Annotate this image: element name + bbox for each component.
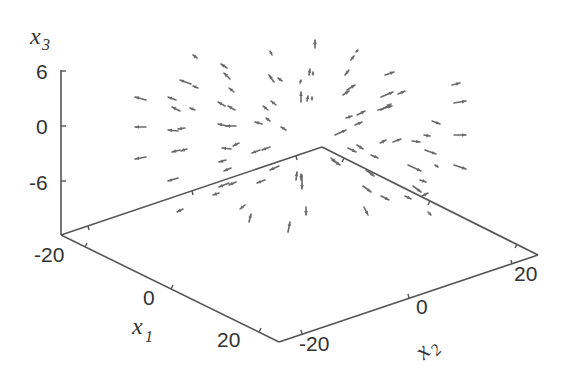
vector-arrow — [287, 222, 291, 232]
vector-arrow — [278, 78, 282, 81]
vector-arrow — [351, 56, 354, 60]
vector-arrow — [310, 97, 314, 100]
vector-arrow — [168, 178, 178, 182]
vector-field-plot: 6 0 -6 -20 0 20 -20 0 20 x 3 x 1 x 2 — [0, 0, 569, 369]
x1-back-tick-1 — [342, 158, 344, 162]
arrowhead-icon — [432, 151, 436, 154]
vector-arrow — [181, 148, 187, 151]
vector-arrow — [371, 155, 378, 158]
arrowhead-icon — [348, 115, 352, 118]
vector-arrow — [266, 118, 270, 121]
vector-arrow — [304, 207, 308, 215]
vector-arrow — [454, 165, 466, 169]
x3-tick-label-6: 6 — [36, 60, 48, 83]
vector-arrow — [226, 124, 236, 128]
arrowhead-icon — [213, 192, 217, 195]
x1-axis-line — [61, 235, 279, 342]
vector-arrow — [357, 145, 363, 149]
x1-tick-m20 — [85, 243, 87, 247]
vector-arrow — [454, 133, 466, 137]
vector-arrow — [424, 134, 430, 138]
vector-arrow — [168, 97, 176, 100]
vector-arrow — [356, 50, 359, 53]
x1-tick-label-0: 0 — [143, 286, 155, 309]
vector-arrow — [299, 80, 302, 83]
vector-arrow — [348, 148, 356, 152]
vector-arrow — [295, 172, 299, 180]
arrowhead-icon — [252, 150, 256, 153]
vector-arrow — [428, 212, 431, 215]
vector-arrow — [393, 139, 401, 142]
axes-box — [61, 70, 538, 342]
arrowhead-icon — [462, 166, 466, 169]
vector-arrow — [381, 196, 389, 200]
x3-tick-label-0: 0 — [36, 115, 48, 138]
x1-axis-title: x 1 — [131, 313, 153, 345]
x2-back-tick-1 — [88, 226, 89, 230]
arrowhead-icon — [226, 124, 230, 128]
vector-arrow — [193, 55, 197, 58]
vector-arrow — [213, 192, 219, 195]
x3-title-sub: 3 — [41, 36, 50, 53]
vector-arrow — [308, 69, 312, 75]
arrowhead-icon — [311, 72, 315, 74]
vector-arrow — [281, 127, 286, 130]
x3-tick-label-m6: -6 — [29, 171, 48, 194]
arrowhead-icon — [300, 185, 304, 189]
arrowhead-icon — [397, 139, 401, 142]
vector-arrow — [306, 96, 310, 101]
x2-tick-20 — [511, 260, 512, 264]
x1-tick-20 — [259, 328, 261, 332]
x2-tick-0 — [408, 294, 409, 298]
arrowhead-icon — [135, 125, 139, 129]
vector-arrow — [270, 166, 279, 170]
x1-back-tick-2 — [428, 201, 430, 205]
vector-arrow — [422, 193, 428, 196]
vector-arrow — [413, 186, 421, 192]
vector-arrow — [190, 108, 195, 111]
vector-arrow — [343, 91, 349, 95]
arrowhead-icon — [168, 97, 172, 100]
x2-axis-line — [279, 255, 538, 342]
vector-arrow — [408, 165, 421, 171]
arrowhead-icon — [168, 178, 172, 181]
vector-arrow — [240, 205, 245, 209]
vector-arrow — [172, 107, 180, 111]
vector-arrow — [311, 72, 315, 75]
x1-title-main: x — [131, 313, 143, 339]
x1-back-tick-3 — [515, 244, 517, 248]
arrowhead-icon — [257, 180, 261, 183]
vector-arrow — [271, 101, 276, 105]
vector-arrow — [229, 182, 236, 185]
arrowhead-icon — [299, 92, 303, 96]
arrowhead-icon — [304, 211, 308, 215]
vector-arrow — [355, 122, 362, 125]
vector-arrow — [178, 127, 185, 131]
vector-arrow — [425, 150, 436, 154]
vector-arrow — [454, 100, 466, 104]
x2-tick-label-20: 20 — [514, 262, 537, 285]
x2-back-edge — [61, 147, 322, 235]
vector-arrow — [270, 51, 273, 55]
vector-arrow — [222, 147, 231, 151]
vector-arrow — [380, 140, 386, 143]
vector-arrow — [412, 140, 420, 144]
vector-arrow — [435, 164, 438, 167]
x1-tick-label-20: 20 — [217, 328, 240, 351]
vector-arrow — [405, 196, 411, 199]
vector-arrow — [252, 150, 260, 153]
x2-axis-title: x 2 — [408, 331, 444, 367]
vector-arrow — [347, 85, 355, 90]
arrowhead-icon — [462, 133, 466, 137]
x2-back-tick-2 — [192, 191, 193, 195]
vector-arrow — [357, 111, 365, 115]
vector-arrow — [299, 92, 303, 102]
vector-arrow — [229, 88, 234, 92]
arrowhead-icon — [313, 40, 317, 44]
arrowhead-icon — [310, 97, 314, 99]
vector-arrow — [398, 91, 405, 94]
vector-arrow — [381, 92, 393, 97]
arrowhead-icon — [390, 72, 394, 75]
vector-arrows — [135, 40, 466, 232]
vector-arrow — [345, 70, 349, 75]
